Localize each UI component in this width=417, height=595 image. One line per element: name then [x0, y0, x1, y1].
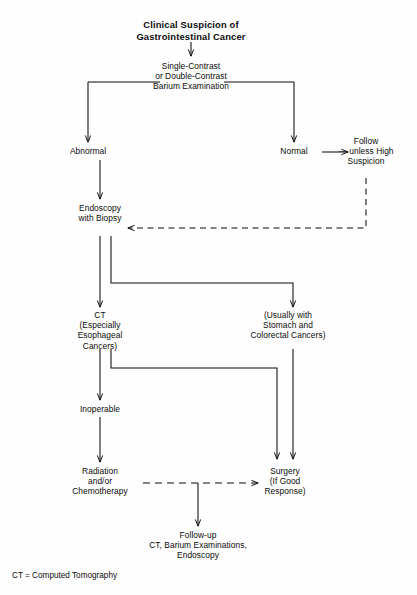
node-line: Endoscopy	[149, 550, 247, 560]
node-line: CT	[78, 310, 123, 320]
node-line: — unless High	[338, 146, 393, 156]
node-line: Stomach and	[251, 320, 326, 330]
node-line: Inoperable	[80, 404, 120, 414]
node-radiation-chemotherapy: Radiation and/or Chemotherapy	[72, 466, 128, 497]
node-line: Surgery	[265, 466, 306, 476]
node-clinical-suspicion: Clinical Suspicion of Gastrointestinal C…	[136, 19, 245, 42]
node-line: Cancers)	[78, 341, 123, 351]
node-abnormal: Abnormal	[70, 146, 106, 156]
node-barium-examination: Single-Contrast or Double-Contrast Bariu…	[153, 61, 229, 92]
node-line: Abnormal	[70, 146, 106, 156]
node-line: Clinical Suspicion of	[136, 19, 245, 31]
node-follow-up: Follow-up CT, Barium Examinations, Endos…	[149, 530, 247, 561]
node-line: (Especially	[78, 320, 123, 330]
node-line: Gastrointestinal Cancer	[136, 31, 245, 43]
node-line: CT, Barium Examinations,	[149, 540, 247, 550]
node-line: Normal	[280, 146, 307, 156]
node-ct-especially-esophageal-cancers: CT (Especially Esophageal Cancers)	[78, 310, 123, 351]
node-surgery-if-good-response: Surgery (If Good Response)	[265, 466, 306, 497]
node-endoscopy-with-biopsy: Endoscopy with Biopsy	[79, 203, 122, 223]
node-line: Single-Contrast	[153, 61, 229, 71]
edge-endoscopy-to-usually	[111, 236, 293, 307]
node-line: or Double-Contrast	[153, 71, 229, 81]
node-line: Chemotherapy	[72, 486, 128, 496]
node-line: Follow	[338, 136, 393, 146]
node-line: Colorectal Cancers)	[251, 330, 326, 340]
node-line: Response)	[265, 486, 306, 496]
node-line: (If Good	[265, 476, 306, 486]
node-follow-unless-high-suspicion: Follow — unless High Suspicion	[338, 136, 393, 167]
node-normal: Normal	[280, 146, 307, 156]
node-line: Endoscopy	[79, 203, 122, 213]
node-line: Barium Examination	[153, 81, 229, 91]
node-line: Suspicion	[338, 156, 393, 166]
edge-ct-to-surgery	[111, 349, 277, 459]
node-usually-with-stomach-colorectal-cancers: (Usually with Stomach and Colorectal Can…	[251, 310, 326, 341]
node-line: and/or	[72, 476, 128, 486]
node-line: Esophageal	[78, 330, 123, 340]
node-line: (Usually with	[251, 310, 326, 320]
node-line: with Biopsy	[79, 213, 122, 223]
legend-ct-abbreviation: CT = Computed Tomography	[12, 571, 117, 581]
flowchart-figure: Clinical Suspicion of Gastrointestinal C…	[0, 0, 417, 595]
edge-follow-to-endoscopy	[128, 178, 366, 228]
node-line: Radiation	[72, 466, 128, 476]
node-inoperable: Inoperable	[80, 404, 120, 414]
node-line: Follow-up	[149, 530, 247, 540]
